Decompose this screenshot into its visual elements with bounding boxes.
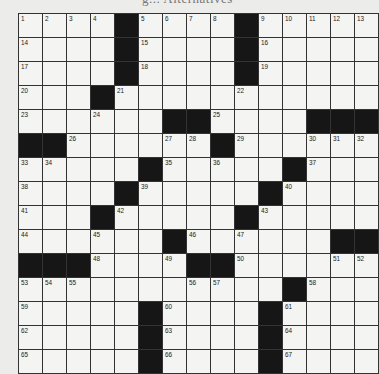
- grid-cell[interactable]: [67, 230, 90, 253]
- grid-cell[interactable]: [211, 62, 234, 85]
- grid-cell[interactable]: [211, 86, 234, 109]
- grid-cell[interactable]: [91, 350, 114, 373]
- grid-cell[interactable]: [43, 302, 66, 325]
- grid-cell[interactable]: 33: [19, 158, 42, 181]
- grid-cell[interactable]: [187, 350, 210, 373]
- grid-cell[interactable]: [331, 206, 354, 229]
- grid-cell[interactable]: 11: [307, 14, 330, 37]
- grid-cell[interactable]: [211, 206, 234, 229]
- grid-cell[interactable]: [91, 62, 114, 85]
- grid-cell[interactable]: [235, 350, 258, 373]
- grid-cell[interactable]: [235, 158, 258, 181]
- grid-cell[interactable]: 17: [19, 62, 42, 85]
- grid-cell[interactable]: [283, 38, 306, 61]
- grid-cell[interactable]: [355, 38, 378, 61]
- grid-cell[interactable]: 8: [211, 14, 234, 37]
- grid-cell[interactable]: 42: [115, 206, 138, 229]
- grid-cell[interactable]: 67: [283, 350, 306, 373]
- grid-cell[interactable]: [187, 206, 210, 229]
- grid-cell[interactable]: [307, 230, 330, 253]
- grid-cell[interactable]: [235, 278, 258, 301]
- grid-cell[interactable]: 60: [163, 302, 186, 325]
- grid-cell[interactable]: [139, 278, 162, 301]
- grid-cell[interactable]: 23: [19, 110, 42, 133]
- grid-cell[interactable]: [331, 86, 354, 109]
- grid-cell[interactable]: 27: [163, 134, 186, 157]
- grid-cell[interactable]: 1: [19, 14, 42, 37]
- grid-cell[interactable]: [211, 302, 234, 325]
- grid-cell[interactable]: 63: [163, 326, 186, 349]
- grid-cell[interactable]: [139, 230, 162, 253]
- grid-cell[interactable]: [259, 278, 282, 301]
- grid-cell[interactable]: 48: [91, 254, 114, 277]
- grid-cell[interactable]: [259, 134, 282, 157]
- grid-cell[interactable]: [307, 350, 330, 373]
- grid-cell[interactable]: [331, 38, 354, 61]
- grid-cell[interactable]: [331, 350, 354, 373]
- grid-cell[interactable]: [283, 110, 306, 133]
- grid-cell[interactable]: 55: [67, 278, 90, 301]
- grid-cell[interactable]: [43, 230, 66, 253]
- grid-cell[interactable]: 58: [307, 278, 330, 301]
- grid-cell[interactable]: [307, 86, 330, 109]
- grid-cell[interactable]: [163, 206, 186, 229]
- grid-cell[interactable]: [115, 158, 138, 181]
- grid-cell[interactable]: 36: [211, 158, 234, 181]
- grid-cell[interactable]: [307, 254, 330, 277]
- grid-cell[interactable]: [139, 206, 162, 229]
- grid-cell[interactable]: [139, 254, 162, 277]
- grid-cell[interactable]: [211, 326, 234, 349]
- grid-cell[interactable]: [67, 350, 90, 373]
- grid-cell[interactable]: 49: [163, 254, 186, 277]
- grid-cell[interactable]: [283, 134, 306, 157]
- grid-cell[interactable]: [235, 302, 258, 325]
- grid-cell[interactable]: [67, 158, 90, 181]
- grid-cell[interactable]: [67, 110, 90, 133]
- grid-cell[interactable]: 39: [139, 182, 162, 205]
- grid-cell[interactable]: 2: [43, 14, 66, 37]
- grid-cell[interactable]: [43, 326, 66, 349]
- grid-cell[interactable]: [307, 206, 330, 229]
- grid-cell[interactable]: 34: [43, 158, 66, 181]
- grid-cell[interactable]: [259, 230, 282, 253]
- grid-cell[interactable]: 29: [235, 134, 258, 157]
- grid-cell[interactable]: [163, 62, 186, 85]
- grid-cell[interactable]: [67, 62, 90, 85]
- grid-cell[interactable]: [187, 86, 210, 109]
- grid-cell[interactable]: [91, 278, 114, 301]
- grid-cell[interactable]: 54: [43, 278, 66, 301]
- grid-cell[interactable]: [283, 254, 306, 277]
- grid-cell[interactable]: [355, 86, 378, 109]
- grid-cell[interactable]: [187, 158, 210, 181]
- grid-cell[interactable]: [115, 302, 138, 325]
- grid-cell[interactable]: [331, 302, 354, 325]
- grid-cell[interactable]: [91, 302, 114, 325]
- grid-cell[interactable]: [43, 86, 66, 109]
- grid-cell[interactable]: 21: [115, 86, 138, 109]
- grid-cell[interactable]: [331, 182, 354, 205]
- grid-cell[interactable]: [139, 110, 162, 133]
- grid-cell[interactable]: 65: [19, 350, 42, 373]
- grid-cell[interactable]: 28: [187, 134, 210, 157]
- grid-cell[interactable]: 57: [211, 278, 234, 301]
- grid-cell[interactable]: [91, 182, 114, 205]
- grid-cell[interactable]: [43, 110, 66, 133]
- grid-cell[interactable]: [115, 326, 138, 349]
- grid-cell[interactable]: [355, 278, 378, 301]
- grid-cell[interactable]: [67, 38, 90, 61]
- grid-cell[interactable]: [187, 302, 210, 325]
- grid-cell[interactable]: [235, 326, 258, 349]
- grid-cell[interactable]: [331, 326, 354, 349]
- grid-cell[interactable]: 51: [331, 254, 354, 277]
- grid-cell[interactable]: 3: [67, 14, 90, 37]
- grid-cell[interactable]: [91, 326, 114, 349]
- grid-cell[interactable]: 45: [91, 230, 114, 253]
- grid-cell[interactable]: 61: [283, 302, 306, 325]
- grid-cell[interactable]: 19: [259, 62, 282, 85]
- grid-cell[interactable]: 25: [211, 110, 234, 133]
- grid-cell[interactable]: [43, 38, 66, 61]
- grid-cell[interactable]: [187, 62, 210, 85]
- grid-cell[interactable]: [115, 254, 138, 277]
- grid-cell[interactable]: [355, 350, 378, 373]
- grid-cell[interactable]: [43, 350, 66, 373]
